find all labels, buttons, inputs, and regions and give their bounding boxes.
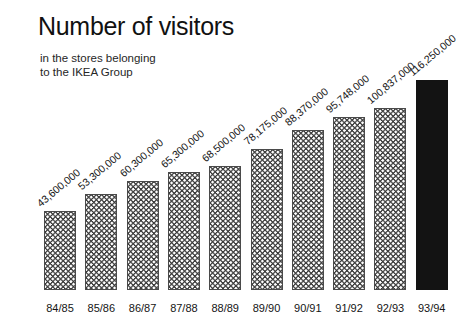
bar-87-88	[168, 172, 200, 290]
bar-84-85	[44, 211, 76, 290]
x-axis-label-92-93: 92/93	[370, 302, 410, 314]
x-axis-label-89-90: 89/90	[247, 302, 287, 314]
plot-area: 43,600,00084/8553,300,00085/8660,300,000…	[0, 0, 465, 328]
value-label-93-94: 116,250,000	[406, 32, 458, 78]
value-label-89-90: 78,175,000	[241, 104, 289, 147]
bar-92-93	[374, 108, 406, 290]
x-axis-label-85-86: 85/86	[81, 302, 121, 314]
bar-85-86	[85, 194, 117, 290]
bar-90-91	[292, 130, 324, 290]
visitors-bar-chart: Number of visitors in the stores belongi…	[0, 0, 465, 328]
value-label-86-87: 60,300,000	[117, 136, 165, 179]
bar-88-89	[209, 166, 241, 290]
value-label-87-88: 65,300,000	[158, 127, 206, 170]
bar-89-90	[251, 149, 283, 290]
x-axis-label-86-87: 86/87	[123, 302, 163, 314]
x-axis-label-88-89: 88/89	[205, 302, 245, 314]
bar-86-87	[127, 181, 159, 290]
x-axis-label-90-91: 90/91	[288, 302, 328, 314]
value-label-85-86: 53,300,000	[76, 149, 124, 192]
bar-91-92	[333, 117, 365, 290]
value-label-90-91: 88,370,000	[282, 85, 330, 128]
x-axis-label-91-92: 91/92	[329, 302, 369, 314]
bar-93-94	[416, 80, 448, 290]
x-axis-label-84-85: 84/85	[40, 302, 80, 314]
x-axis-label-93-94: 93/94	[412, 302, 452, 314]
value-label-84-85: 43,600,000	[34, 166, 82, 209]
value-label-88-89: 68,500,000	[199, 121, 247, 164]
x-axis-label-87-88: 87/88	[164, 302, 204, 314]
